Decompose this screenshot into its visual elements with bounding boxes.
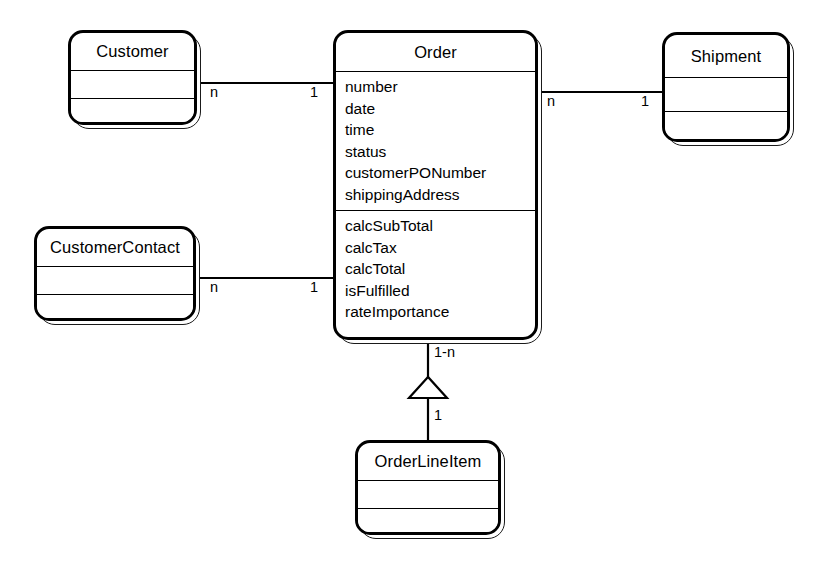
attribute-item: shippingAddress bbox=[345, 184, 535, 206]
operation-item: rateImportance bbox=[345, 301, 535, 323]
attributes-compartment: number date time status customerPONumber… bbox=[336, 71, 535, 210]
class-name-compartment: Order bbox=[336, 33, 535, 71]
class-name-label: Shipment bbox=[691, 48, 762, 65]
class-name-label: Order bbox=[414, 44, 457, 61]
class-name-label: Customer bbox=[96, 43, 168, 60]
class-box-body: Shipment bbox=[662, 32, 790, 142]
multiplicity-customercontact-order-from: n bbox=[210, 280, 218, 295]
class-box-shipment[interactable]: Shipment bbox=[662, 32, 790, 142]
operations-compartment bbox=[358, 508, 498, 532]
class-box-customercontact[interactable]: CustomerContact bbox=[34, 226, 196, 321]
class-box-body: OrderLineItem bbox=[355, 440, 501, 535]
multiplicity-customer-order-to: 1 bbox=[310, 85, 318, 100]
attributes-compartment bbox=[37, 266, 193, 294]
class-name-compartment: Customer bbox=[71, 33, 194, 70]
multiplicity-order-orderlineitem-from: 1-n bbox=[434, 345, 455, 360]
multiplicity-order-shipment-from: n bbox=[547, 94, 555, 109]
operations-compartment: calcSubTotal calcTax calcTotal isFulfill… bbox=[336, 210, 535, 337]
attributes-compartment bbox=[71, 70, 194, 98]
multiplicity-order-shipment-to: 1 bbox=[641, 94, 649, 109]
attribute-item: number bbox=[345, 76, 535, 98]
operation-item: isFulfilled bbox=[345, 280, 535, 302]
attribute-item: status bbox=[345, 141, 535, 163]
class-box-customer[interactable]: Customer bbox=[68, 30, 197, 125]
class-name-compartment: Shipment bbox=[665, 35, 787, 77]
class-box-body: CustomerContact bbox=[34, 226, 196, 321]
operation-item: calcSubTotal bbox=[345, 215, 535, 237]
class-name-compartment: OrderLineItem bbox=[358, 443, 498, 480]
attributes-compartment bbox=[358, 480, 498, 508]
attributes-compartment bbox=[665, 77, 787, 111]
operations-compartment bbox=[37, 294, 193, 318]
class-box-body: Order number date time status customerPO… bbox=[333, 30, 538, 340]
class-box-orderlineitem[interactable]: OrderLineItem bbox=[355, 440, 501, 535]
attribute-item: time bbox=[345, 119, 535, 141]
attribute-item: date bbox=[345, 98, 535, 120]
attribute-item: customerPONumber bbox=[345, 162, 535, 184]
class-name-compartment: CustomerContact bbox=[37, 229, 193, 266]
generalization-triangle-icon bbox=[409, 377, 447, 398]
uml-diagram-canvas: n 1 n 1 n 1 1-n 1 Customer CustomerConta… bbox=[0, 0, 818, 574]
multiplicity-customer-order-from: n bbox=[210, 85, 218, 100]
class-box-body: Customer bbox=[68, 30, 197, 125]
operations-compartment bbox=[71, 98, 194, 122]
operation-item: calcTax bbox=[345, 237, 535, 259]
class-name-label: CustomerContact bbox=[50, 239, 180, 256]
operations-compartment bbox=[665, 111, 787, 139]
class-name-label: OrderLineItem bbox=[375, 453, 482, 470]
class-box-order[interactable]: Order number date time status customerPO… bbox=[333, 30, 538, 340]
multiplicity-order-orderlineitem-to: 1 bbox=[434, 408, 442, 423]
operation-item: calcTotal bbox=[345, 258, 535, 280]
multiplicity-customercontact-order-to: 1 bbox=[310, 280, 318, 295]
